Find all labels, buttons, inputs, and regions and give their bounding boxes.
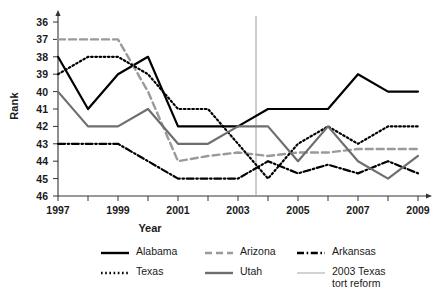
- legend-swatch-icon: [100, 267, 130, 279]
- legend-label: Arizona: [240, 246, 276, 258]
- legend-label: Arkansas: [332, 246, 376, 258]
- legend-swatch-icon: [296, 267, 326, 279]
- chart-svg: [0, 0, 435, 215]
- legend-label: Alabama: [136, 246, 177, 258]
- y-tick-label: 41: [24, 103, 48, 115]
- legend-label: 2003 Texastort reform: [332, 266, 386, 289]
- legend-swatch-icon: [204, 267, 234, 279]
- x-tick-label: 2001: [158, 204, 198, 216]
- legend-swatch-icon: [204, 247, 234, 259]
- series-line-arkansas: [58, 144, 418, 179]
- y-tick-label: 39: [24, 68, 48, 80]
- x-tick-label: 1999: [98, 204, 138, 216]
- legend-item-alabama[interactable]: Alabama: [100, 246, 204, 259]
- legend-swatch-icon: [100, 247, 130, 259]
- y-tick-label: 37: [24, 33, 48, 45]
- y-tick-label: 46: [24, 190, 48, 202]
- y-tick-label: 44: [24, 155, 48, 167]
- legend-item-arizona[interactable]: Arizona: [204, 246, 296, 259]
- y-tick-label: 45: [24, 173, 48, 185]
- y-tick-label: 43: [24, 138, 48, 150]
- legend-item-arkansas[interactable]: Arkansas: [296, 246, 406, 259]
- x-tick-label: 2005: [278, 204, 318, 216]
- legend-item-2003-texas[interactable]: 2003 Texastort reform: [296, 266, 406, 289]
- y-tick-label: 42: [24, 120, 48, 132]
- legend-label: Utah: [240, 266, 262, 278]
- chart-figure: Rank Year 363738394041424344454619971999…: [0, 0, 435, 304]
- x-axis-arrow: [426, 193, 432, 198]
- series-line-texas: [58, 57, 418, 179]
- y-axis-arrow: [55, 10, 60, 16]
- x-tick-label: 1997: [38, 204, 78, 216]
- y-tick-label: 40: [24, 86, 48, 98]
- series-line-alabama: [58, 57, 418, 127]
- legend-item-utah[interactable]: Utah: [204, 266, 296, 289]
- x-tick-label: 2009: [398, 204, 435, 216]
- x-axis-title: Year: [0, 222, 300, 234]
- x-tick-label: 2007: [338, 204, 378, 216]
- y-tick-label: 36: [24, 16, 48, 28]
- legend-item-texas[interactable]: Texas: [100, 266, 204, 289]
- y-tick-label: 38: [24, 51, 48, 63]
- legend-swatch-icon: [296, 247, 326, 259]
- plot-area: 3637383940414243444546199719992001200320…: [0, 0, 435, 215]
- x-tick-label: 2003: [218, 204, 258, 216]
- legend-label: Texas: [136, 266, 163, 278]
- series-line-utah: [58, 92, 418, 179]
- chart-legend: AlabamaArizonaArkansasTexasUtah2003 Texa…: [100, 246, 420, 289]
